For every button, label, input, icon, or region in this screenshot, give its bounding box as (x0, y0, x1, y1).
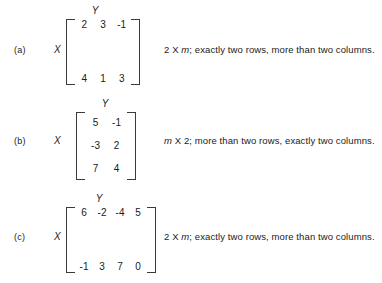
figure-item-c: (c) X Y 6 -2 -4 5 -1 3 7 0 (0, 190, 382, 283)
row-variable-label-b: X (54, 135, 61, 146)
matrix-cell: -1 (112, 19, 131, 31)
matrix-cell: 4 (106, 163, 127, 175)
matrix-row: 4 1 3 (75, 73, 131, 85)
matrix-row: -3 2 (85, 140, 127, 152)
matrix-bracket-left-a (66, 19, 75, 85)
item-label-b: (b) (14, 136, 26, 146)
matrix-cell: 0 (129, 261, 147, 273)
matrix-cell: -3 (85, 140, 106, 152)
matrix-bracket-right-c (147, 207, 156, 273)
item-label-a: (a) (14, 45, 26, 55)
description-a: 2 X m; exactly two rows, more than two c… (164, 44, 375, 55)
matrix-row: 7 4 (85, 163, 127, 175)
matrix-bracket-left-c (66, 207, 75, 273)
matrix-bracket-left-b (76, 112, 85, 180)
matrix-row: -1 3 7 0 (75, 261, 147, 273)
figure-item-b: (b) X Y 5 -1 -3 2 7 4 m X (0, 95, 382, 190)
description-c: 2 X m; exactly two rows, more than two c… (164, 231, 375, 242)
matrix-c: 6 -2 -4 5 -1 3 7 0 (66, 207, 156, 273)
column-variable-label-c: Y (92, 193, 106, 204)
matrix-bracket-right-b (127, 112, 136, 180)
matrix-cell: 7 (111, 261, 129, 273)
matrix-grid-c: 6 -2 -4 5 -1 3 7 0 (75, 207, 147, 273)
matrix-cell: 5 (129, 207, 147, 219)
matrix-cell: 1 (94, 73, 113, 85)
matrix-cell: -4 (111, 207, 129, 219)
matrix-cell: 6 (75, 207, 93, 219)
matrix-cell: 7 (85, 163, 106, 175)
matrix-cell: -1 (75, 261, 93, 273)
matrix-cell: -1 (106, 117, 127, 129)
matrix-grid-a: 2 3 -1 4 1 3 (75, 19, 131, 85)
dimension-first-b: m (164, 135, 172, 146)
matrix-cell: -2 (93, 207, 111, 219)
matrix-b: 5 -1 -3 2 7 4 (76, 112, 136, 180)
matrix-cell: 5 (85, 117, 106, 129)
matrix-dimensions-figure: (a) X Y 2 3 -1 4 1 3 2 X m; exactly two … (0, 0, 382, 283)
description-detail-c: ; exactly two rows, more than two column… (189, 231, 374, 242)
column-variable-label-a: Y (88, 5, 102, 16)
matrix-cell: 2 (75, 19, 94, 31)
description-detail-a: ; exactly two rows, more than two column… (189, 44, 374, 55)
matrix-cell: 3 (94, 19, 113, 31)
matrix-cell: 2 (106, 140, 127, 152)
matrix-bracket-right-a (131, 19, 140, 85)
item-label-c: (c) (14, 232, 25, 242)
matrix-a: 2 3 -1 4 1 3 (66, 19, 140, 85)
matrix-row: 5 -1 (85, 117, 127, 129)
description-detail-b: ; more than two rows, exactly two column… (189, 135, 374, 146)
matrix-cell: 3 (112, 73, 131, 85)
description-b: m X 2; more than two rows, exactly two c… (164, 135, 375, 146)
matrix-cell: 3 (93, 261, 111, 273)
matrix-row: 6 -2 -4 5 (75, 207, 147, 219)
matrix-grid-b: 5 -1 -3 2 7 4 (85, 112, 127, 180)
row-variable-label-c: X (54, 231, 61, 242)
matrix-cell: 4 (75, 73, 94, 85)
row-variable-label-a: X (54, 44, 61, 55)
column-variable-label-b: Y (98, 98, 112, 109)
figure-item-a: (a) X Y 2 3 -1 4 1 3 2 X m; exactly two … (0, 0, 382, 95)
matrix-row: 2 3 -1 (75, 19, 131, 31)
